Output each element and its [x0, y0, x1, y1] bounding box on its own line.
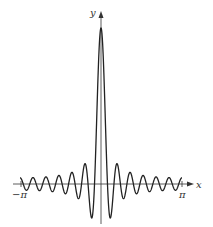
y-axis-label: y — [89, 7, 96, 18]
pi-label: π — [178, 189, 186, 200]
x-axis-label: x — [196, 179, 202, 190]
x-axis-arrow-icon — [187, 182, 194, 187]
y-axis-arrow-icon — [99, 11, 104, 18]
chart: x y −π π — [0, 0, 213, 227]
neg-pi-label: −π — [12, 189, 27, 200]
